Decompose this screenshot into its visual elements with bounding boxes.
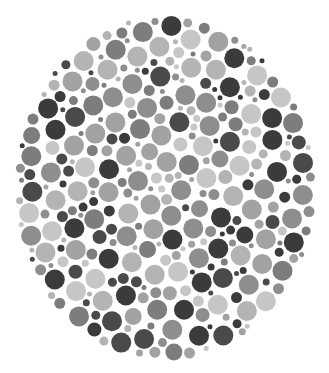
plate-dot [150, 287, 161, 298]
plate-dot [163, 286, 177, 300]
plate-dot [98, 60, 118, 80]
plate-dot [20, 143, 25, 148]
plate-dot [49, 80, 60, 91]
plate-dot [150, 59, 157, 66]
plate-dot [220, 232, 225, 237]
plate-dot [206, 60, 226, 80]
plate-dot [208, 263, 215, 270]
plate-dot [165, 57, 174, 66]
plate-dot [28, 114, 39, 125]
plate-dot [63, 71, 83, 91]
plate-dot [134, 196, 139, 201]
plate-dot [99, 182, 119, 202]
plate-dot [122, 252, 142, 272]
plate-dot [196, 168, 216, 188]
plate-dot [154, 113, 165, 124]
plate-dot [193, 136, 213, 156]
plate-dot [138, 292, 149, 303]
plate-dot [242, 179, 253, 190]
plate-dot [245, 86, 256, 97]
plate-dot [240, 267, 247, 274]
plate-dot [126, 21, 131, 26]
plate-dot [247, 47, 252, 52]
plate-dot [99, 337, 108, 346]
plate-dot [173, 47, 184, 58]
plate-dot [116, 286, 136, 306]
plate-dot [19, 222, 24, 227]
plate-dot [134, 329, 154, 349]
plate-dot [189, 248, 209, 268]
plate-dot [23, 127, 40, 144]
plate-dot [205, 226, 216, 237]
plate-dot [88, 177, 99, 188]
plate-dot [165, 344, 182, 361]
plate-dot [137, 98, 157, 118]
plate-dot [221, 259, 228, 266]
plate-dot [102, 83, 107, 88]
plate-dot [238, 95, 243, 100]
plate-dot [36, 242, 56, 262]
plate-dot [147, 300, 167, 320]
plate-dot [239, 328, 246, 335]
plate-dot [83, 299, 90, 306]
plate-dot [87, 145, 98, 156]
plate-dot [74, 51, 94, 71]
plate-dot [61, 238, 66, 243]
plate-dot [78, 213, 83, 218]
plate-dot [161, 206, 181, 226]
plate-dot [184, 348, 195, 359]
dot-plate [0, 0, 329, 373]
plate-dot [249, 243, 254, 248]
plate-dot [277, 240, 282, 245]
plate-dot [251, 159, 262, 170]
plate-dot [57, 211, 68, 222]
plate-dot [66, 281, 86, 301]
plate-dot [162, 230, 182, 250]
plate-dot [287, 134, 292, 139]
plate-dot [116, 77, 121, 82]
plate-dot [234, 271, 239, 276]
plate-dot [229, 240, 236, 247]
plate-dot [191, 200, 208, 217]
plate-dot [231, 246, 251, 266]
plate-dot [285, 141, 290, 146]
plate-dot [99, 159, 119, 179]
plate-dot [87, 291, 92, 296]
plate-dot [158, 338, 167, 347]
plate-dot [293, 153, 313, 173]
plate-dot [226, 226, 235, 235]
plate-dot [263, 279, 270, 286]
plate-dot [218, 95, 223, 100]
plate-dot [118, 178, 127, 187]
plate-dot [267, 77, 278, 88]
plate-dot [232, 216, 241, 225]
plate-dot [299, 252, 304, 257]
plate-dot [63, 166, 74, 177]
plate-dot [65, 107, 85, 127]
plate-dot [104, 205, 115, 216]
plate-dot [199, 23, 210, 34]
plate-dot [242, 129, 249, 136]
plate-dot [211, 207, 231, 227]
plate-dot [213, 139, 218, 144]
plate-dot [196, 308, 210, 322]
plate-dot [306, 173, 315, 182]
plate-dot [120, 65, 127, 72]
plate-dot [43, 185, 48, 190]
plate-dot [231, 37, 238, 44]
plate-dot [54, 298, 65, 309]
plate-dot [86, 37, 100, 51]
plate-dot [29, 247, 34, 252]
plate-dot [84, 209, 104, 229]
plate-dot [124, 325, 131, 332]
plate-dot [133, 22, 153, 42]
plate-dot [135, 223, 142, 230]
plate-dot [190, 124, 197, 131]
plate-dot [208, 189, 219, 200]
plate-dot [151, 173, 162, 184]
plate-dot [180, 285, 191, 296]
plate-dot [127, 167, 132, 172]
plate-dot [149, 37, 169, 57]
plate-dot [279, 192, 290, 203]
plate-dot [191, 52, 196, 57]
